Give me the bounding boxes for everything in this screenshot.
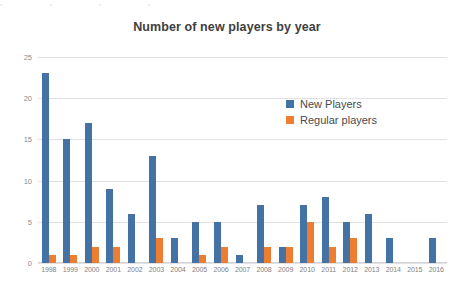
x-axis-tick-label: 2000 xyxy=(81,266,103,273)
bar xyxy=(322,197,329,263)
bar xyxy=(329,247,336,263)
bar xyxy=(214,222,221,263)
x-axis-tick-label: 2005 xyxy=(189,266,211,273)
y-axis-tick-label: 25 xyxy=(24,53,32,62)
bar-group xyxy=(81,57,103,263)
bar xyxy=(149,156,156,263)
bar-group xyxy=(189,57,211,263)
x-axis-tick-label: 2007 xyxy=(232,266,254,273)
y-axis-tick-label: 20 xyxy=(24,94,32,103)
cut-off-text-row: •••• xyxy=(0,0,454,9)
bar-group xyxy=(426,57,448,263)
bar-series-container xyxy=(38,57,447,263)
bar xyxy=(386,238,393,263)
x-axis-tick-label: 2001 xyxy=(103,266,125,273)
y-axis-tick-label: 15 xyxy=(24,135,32,144)
bar xyxy=(199,255,206,263)
bar-group xyxy=(383,57,405,263)
bar xyxy=(63,139,70,263)
x-axis-tick-label: 2014 xyxy=(383,266,405,273)
bar xyxy=(156,238,163,263)
bar xyxy=(343,222,350,263)
bar xyxy=(92,247,99,263)
bar xyxy=(300,205,307,263)
bar xyxy=(264,247,271,263)
x-axis-tick-label: 2002 xyxy=(124,266,146,273)
bar xyxy=(257,205,264,263)
bar xyxy=(128,214,135,263)
y-axis-tick-label: 0 xyxy=(28,259,32,268)
x-axis-tick-label: 2016 xyxy=(426,266,448,273)
bar xyxy=(49,255,56,263)
x-axis-tick-labels: 1998199920002001200220032004200520062007… xyxy=(38,266,447,273)
bar-group xyxy=(253,57,275,263)
cut-off-text-fragment: • xyxy=(49,0,52,9)
bar-group xyxy=(167,57,189,263)
x-axis-tick-label: 2013 xyxy=(361,266,383,273)
x-axis-tick-label: 2006 xyxy=(210,266,232,273)
bar xyxy=(192,222,199,263)
x-axis-tick-label: 2015 xyxy=(404,266,426,273)
bar xyxy=(350,238,357,263)
bar xyxy=(286,247,293,263)
bar-group xyxy=(60,57,82,263)
bar-group xyxy=(296,57,318,263)
x-axis-tick-label: 2011 xyxy=(318,266,340,273)
chart-legend: New PlayersRegular players xyxy=(286,98,377,130)
y-axis-tick-label: 5 xyxy=(28,217,32,226)
bar xyxy=(236,255,243,263)
bar xyxy=(85,123,92,263)
bar xyxy=(106,189,113,263)
bar xyxy=(221,247,228,263)
bar-group xyxy=(275,57,297,263)
bar-group xyxy=(361,57,383,263)
cut-off-text-fragment: • xyxy=(148,0,151,9)
bar xyxy=(113,247,120,263)
plot-area: 0510152025 xyxy=(38,57,447,263)
bar-group xyxy=(210,57,232,263)
bar-group xyxy=(103,57,125,263)
bar xyxy=(70,255,77,263)
bar xyxy=(429,238,436,263)
x-axis-tick-label: 2008 xyxy=(253,266,275,273)
gridline xyxy=(38,263,447,264)
bar xyxy=(42,73,49,263)
bar xyxy=(365,214,372,263)
bar-group xyxy=(146,57,168,263)
legend-item: Regular players xyxy=(286,114,377,126)
bar-group xyxy=(38,57,60,263)
legend-item-label: New Players xyxy=(300,98,362,110)
x-axis-tick-label: 2009 xyxy=(275,266,297,273)
bar-group xyxy=(404,57,426,263)
bar xyxy=(171,238,178,263)
bar-chart-figure: •••• Number of new players by year 05101… xyxy=(0,0,454,288)
bar-group xyxy=(339,57,361,263)
bar xyxy=(279,247,286,263)
legend-item-label: Regular players xyxy=(300,114,377,126)
x-axis-tick-label: 2004 xyxy=(167,266,189,273)
cut-off-text-fragment: • xyxy=(98,0,101,9)
x-axis-tick-label: 1999 xyxy=(60,266,82,273)
legend-color-swatch xyxy=(286,116,294,124)
y-axis-tick-label: 10 xyxy=(24,176,32,185)
chart-title: Number of new players by year xyxy=(0,20,454,34)
bar xyxy=(307,222,314,263)
cut-off-text-fragment: • xyxy=(0,0,3,9)
bar-group xyxy=(124,57,146,263)
x-axis-tick-label: 1998 xyxy=(38,266,60,273)
bar-group xyxy=(232,57,254,263)
bar-group xyxy=(318,57,340,263)
x-axis-tick-label: 2003 xyxy=(146,266,168,273)
x-axis-tick-label: 2010 xyxy=(296,266,318,273)
legend-item: New Players xyxy=(286,98,377,110)
x-axis-tick-label: 2012 xyxy=(339,266,361,273)
legend-color-swatch xyxy=(286,100,294,108)
